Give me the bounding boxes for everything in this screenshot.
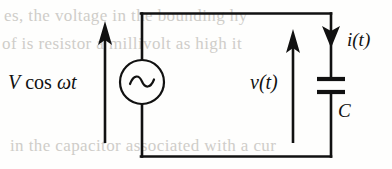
ac-source-symbol: [120, 60, 164, 104]
circuit-loop-wires: [141, 14, 331, 157]
source-voltage-arrow: [98, 21, 112, 143]
capacitor-voltage-label: v(t): [250, 72, 278, 92]
circuit-diagram-figure: es, the voltage in the bounding hy of is…: [0, 0, 392, 169]
current-label: i(t): [347, 30, 370, 49]
capacitor-symbol: [317, 79, 345, 92]
source-voltage-label-omega-t: ωt: [57, 71, 77, 93]
source-voltage-label: V cos ωt: [8, 72, 77, 92]
source-voltage-label-V: V: [8, 71, 20, 93]
source-voltage-label-cos: cos: [20, 71, 57, 93]
capacitor-voltage-arrow: [286, 29, 300, 143]
capacitor-label: C: [338, 101, 351, 120]
